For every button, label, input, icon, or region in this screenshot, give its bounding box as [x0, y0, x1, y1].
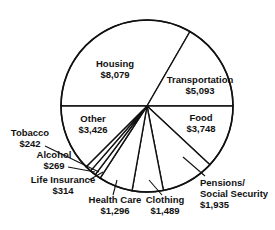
label-tobacco: Tobacco$242	[11, 127, 50, 149]
label-life-insurance: Life Insurance$314	[31, 174, 95, 196]
label-health-care: Health Care$1,296	[89, 194, 142, 216]
label-food: Food$3,748	[186, 112, 215, 134]
label-alcohol: Alcohol$269	[37, 149, 72, 171]
label-other: Other$3,426	[78, 113, 107, 135]
label-pensions-social-security: Pensions/Social Security$1,935	[200, 177, 269, 210]
pie-chart: Housing$8,079Transportation$5,093Food$3,…	[0, 0, 275, 230]
label-clothing: Clothing$1,489	[146, 194, 185, 216]
label-housing: Housing$8,079	[96, 58, 134, 80]
